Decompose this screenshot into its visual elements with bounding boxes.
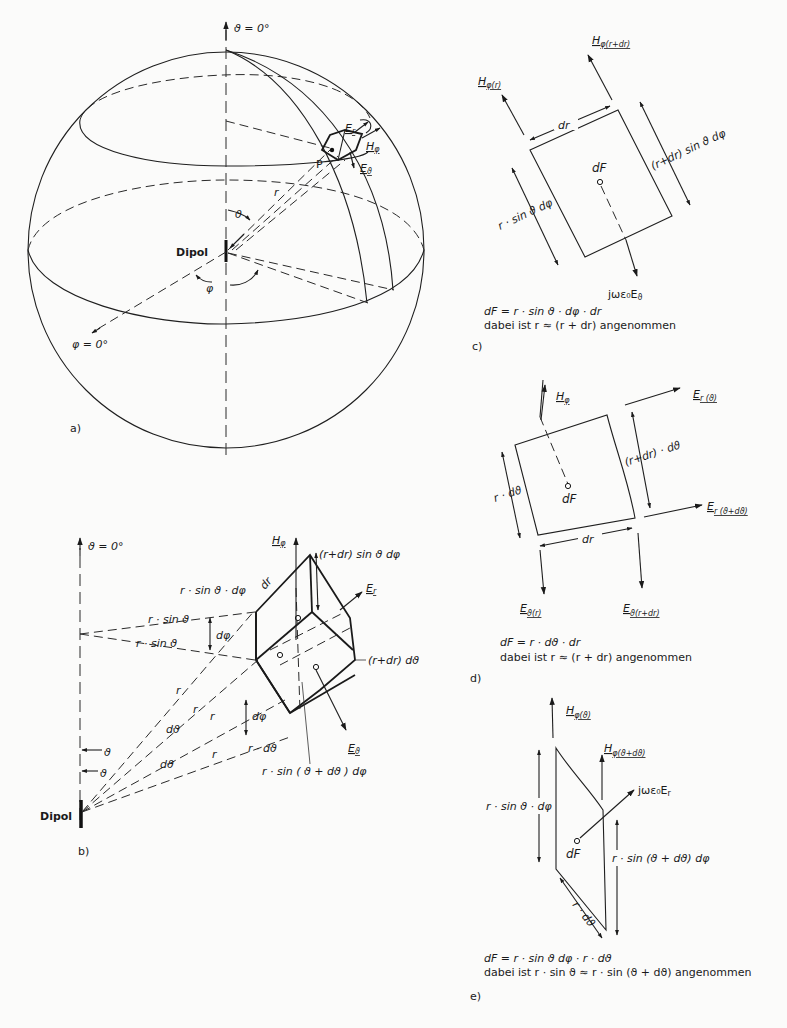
c-current-dashed bbox=[601, 186, 626, 240]
e-current-label: jωε₀Er bbox=[637, 784, 672, 798]
b-dr: dr bbox=[257, 574, 275, 592]
b-box-edge-3 bbox=[256, 612, 312, 660]
c-h-r-label: Hφ(r) bbox=[478, 75, 501, 90]
volume-edge bbox=[338, 130, 345, 160]
projection-line-1 bbox=[228, 253, 368, 303]
d-dr-label: dr bbox=[582, 533, 595, 546]
b-box-inner-2 bbox=[280, 628, 350, 665]
panel-d-surface: Hφ dF Er (ϑ) Er (ϑ+dϑ) (r+dr) · dϑ r · d… bbox=[470, 380, 748, 685]
hphi-label: Hφ bbox=[366, 140, 380, 154]
point-p-dot bbox=[330, 148, 334, 152]
d-hphi-label: Hφ bbox=[556, 390, 570, 405]
theta-angle-label: ϑ bbox=[235, 208, 242, 221]
panel-a-sphere: ϑ = 0° Dipol φ = 0° φ r ϑ P Er bbox=[28, 22, 424, 455]
b-r-label-3: r bbox=[210, 710, 216, 723]
d-et-rdr-arrow-icon bbox=[638, 533, 642, 588]
d-er-theta-arrow-icon bbox=[625, 388, 680, 405]
c-current-label: jωε₀Eϑ bbox=[607, 288, 643, 302]
b-er-arrow-icon bbox=[340, 592, 362, 610]
b-box-outline bbox=[256, 555, 355, 713]
d-er-theta-label: Er (ϑ) bbox=[693, 388, 717, 403]
b-box-edge-5 bbox=[256, 660, 290, 713]
d-right-edge: (r+dr) · dϑ bbox=[623, 438, 682, 468]
e-h-theta-dtheta-label: Hφ(ϑ+dϑ) bbox=[604, 742, 646, 758]
e-current-arrow-icon bbox=[580, 790, 634, 838]
b-er-label: Er bbox=[366, 582, 377, 596]
d-et-rdr-label: Eϑ(r+dr) bbox=[623, 602, 660, 618]
d-df-point bbox=[565, 483, 570, 488]
panel-b-caption: b) bbox=[78, 845, 89, 858]
b-r-sin-1: r · sin ϑ bbox=[148, 613, 189, 626]
panel-d-caption: d) bbox=[470, 672, 481, 685]
b-etheta-label: Eϑ bbox=[348, 742, 360, 756]
b-dphi-1: dφ bbox=[216, 629, 231, 642]
c-h-rdr-arrow-icon bbox=[588, 55, 612, 100]
b-r-label-2: r bbox=[193, 703, 199, 716]
e-h-theta-label: Hφ(ϑ) bbox=[566, 704, 591, 720]
panel-e-surface: Hφ(ϑ) Hφ(ϑ+dϑ) dF jωε₀Er r · sin ϑ · dφ … bbox=[470, 698, 751, 1003]
b-dtheta-1: dϑ bbox=[166, 723, 180, 736]
d-et-r-arrow-icon bbox=[540, 550, 544, 594]
b-dphi-2: dφ bbox=[252, 710, 267, 723]
b-top-dim bbox=[316, 553, 318, 610]
phi-arc-left bbox=[196, 275, 212, 282]
d-caption-line-1: dF = r · dϑ · dr bbox=[500, 636, 582, 649]
b-rdr-dtheta: (r+dr) dϑ bbox=[368, 654, 419, 667]
b-top-edge: (r+dr) sin ϑ dφ bbox=[319, 548, 401, 561]
figure-canvas: ϑ = 0° Dipol φ = 0° φ r ϑ P Er bbox=[0, 0, 787, 1028]
d-et-r-label: Eϑ(r) bbox=[520, 602, 541, 618]
phi-axis-label: φ = 0° bbox=[72, 338, 108, 351]
d-er-theta-dtheta-label: Er (ϑ+dϑ) bbox=[707, 500, 748, 516]
e-df-label: dF bbox=[566, 847, 582, 861]
dipole-label: Dipol bbox=[176, 246, 208, 259]
hphi-arrow-icon bbox=[362, 128, 380, 138]
b-r-label-1: r bbox=[176, 684, 182, 697]
panel-a-caption: a) bbox=[70, 422, 81, 435]
d-caption-line-2: dabei ist r ≈ (r + dr) angenommen bbox=[500, 651, 692, 664]
d-er-theta-dtheta-arrow-icon bbox=[644, 505, 702, 517]
b-r-dtheta: r · dϑ bbox=[248, 742, 277, 755]
panel-b-volume: ϑ = 0° Dipol r · sin ϑ r · sin ϑ dφ Hφ (… bbox=[40, 534, 419, 858]
b-ray-2 bbox=[82, 660, 258, 812]
er-label: Er bbox=[345, 122, 356, 136]
c-current-arrow-icon bbox=[626, 240, 637, 276]
e-df-point bbox=[574, 838, 579, 843]
e-h-theta-arrow-icon bbox=[552, 698, 553, 738]
c-left-edge: r · sin ϑ dφ bbox=[496, 196, 555, 233]
upper-latitude-back bbox=[80, 75, 370, 120]
er-arrow-icon bbox=[355, 122, 368, 132]
phi-axis-arrow-icon bbox=[92, 328, 100, 333]
b-dipole-label: Dipol bbox=[40, 810, 72, 823]
theta-axis-label: ϑ = 0° bbox=[234, 22, 270, 35]
b-r-label-4: r bbox=[212, 748, 218, 761]
point-p-label: P bbox=[316, 158, 323, 171]
c-dr-label: dr bbox=[558, 119, 571, 132]
phi-angle-label: φ bbox=[206, 282, 214, 295]
panel-e-caption: e) bbox=[470, 990, 481, 1003]
e-caption-line-1: dF = r · sin ϑ dφ · r · dϑ bbox=[484, 952, 612, 965]
b-box-edge-2 bbox=[310, 555, 312, 612]
b-leader-2 bbox=[302, 682, 310, 764]
c-df-label: dF bbox=[592, 161, 608, 175]
c-right-edge: (r+dr) sin ϑ dφ bbox=[649, 126, 729, 172]
b-r-sin-theta-dtheta: r · sin ( ϑ + dϑ ) dφ bbox=[262, 765, 367, 778]
radius-line-3 bbox=[236, 160, 345, 250]
b-r-sin-2: r · sin ϑ bbox=[136, 637, 177, 650]
b-box-inner-3 bbox=[296, 588, 300, 712]
d-left-edge: r · dϑ bbox=[492, 484, 524, 505]
d-hphi-dashed bbox=[540, 417, 568, 484]
b-theta-2: ϑ bbox=[100, 767, 107, 780]
c-h-r-arrow-icon bbox=[502, 95, 524, 135]
b-r-sin-dphi: r · sin ϑ · dφ bbox=[180, 584, 247, 597]
e-caption-line-2: dabei ist r · sin ϑ ≈ r · sin (ϑ + dϑ) a… bbox=[484, 966, 751, 979]
b-etheta-arrow-icon bbox=[316, 670, 346, 730]
projection-line-2 bbox=[228, 253, 394, 290]
b-center-2 bbox=[277, 652, 282, 657]
d-element-outline bbox=[515, 415, 635, 535]
radius-label: r bbox=[274, 186, 280, 199]
e-right-edge: r · sin (ϑ + dϑ) dφ bbox=[612, 852, 710, 865]
b-center-3 bbox=[313, 664, 318, 669]
b-hphi-label: Hφ bbox=[272, 534, 286, 548]
phi-arc-right bbox=[230, 270, 258, 285]
upper-projection bbox=[226, 121, 330, 148]
